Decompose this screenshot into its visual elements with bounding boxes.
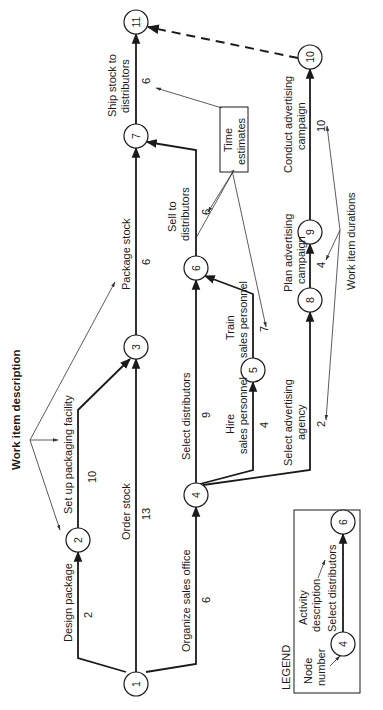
legend-node-to: 6 — [331, 510, 355, 534]
activity-sell-line2: distributors — [179, 187, 191, 241]
svg-text:Time: Time — [222, 128, 234, 152]
legend-title: LEGEND — [280, 645, 292, 690]
svg-text:Activity: Activity — [297, 590, 309, 625]
activity-ship-line1: Ship stock to — [106, 54, 118, 117]
node-6: 6 — [184, 256, 208, 280]
duration-select-distributors: 9 — [200, 412, 212, 418]
svg-text:8: 8 — [304, 297, 316, 303]
svg-text:2: 2 — [72, 537, 84, 543]
svg-text:1: 1 — [130, 681, 142, 687]
activity-order-stock: Order stock — [120, 483, 132, 540]
duration-design-package: 2 — [82, 612, 94, 618]
pointer-arrow-icon — [208, 170, 234, 212]
node-7: 7 — [124, 124, 148, 148]
activity-conduct-campaign-line2: campaign — [295, 102, 307, 150]
svg-text:7: 7 — [130, 133, 142, 139]
activity-labels: Design package 2 Set up packaging facili… — [62, 54, 327, 652]
svg-text:4: 4 — [190, 492, 202, 498]
pointer-arrow-icon — [156, 88, 222, 108]
activity-package-stock: Package stock — [120, 218, 132, 290]
duration-package-stock: 6 — [140, 259, 152, 265]
svg-text:4: 4 — [337, 641, 349, 647]
pointer-arrow-icon — [327, 126, 340, 230]
activity-plan-campaign-line1: Plan advertising — [282, 214, 294, 292]
edges — [78, 27, 310, 672]
activity-hire-line1: Hire — [224, 414, 236, 434]
svg-text:3: 3 — [130, 344, 142, 350]
annotation-work-item-durations: Work item durations — [326, 126, 357, 420]
activity-sell-line1: Sell to — [166, 201, 178, 232]
activity-design-package: Design package — [62, 563, 74, 642]
svg-text:estimates: estimates — [235, 117, 247, 165]
activity-hire-line2: sales personnel — [237, 377, 249, 454]
duration-hire: 4 — [258, 422, 270, 428]
duration-select-agency: 2 — [315, 421, 327, 427]
activity-ship-line2: distributors — [119, 59, 131, 113]
work-item-durations-label: Work item durations — [345, 192, 357, 290]
svg-text:Node: Node — [302, 658, 314, 684]
activity-organize-sales-office: Organize sales office — [180, 549, 192, 652]
activity-conduct-campaign-line1: Conduct advertising — [282, 76, 294, 173]
svg-text:number: number — [315, 648, 327, 686]
pointer-arrow-icon — [30, 440, 60, 530]
activity-train-line1: Train — [224, 315, 236, 340]
duration-order-stock: 13 — [140, 508, 152, 520]
svg-text:5: 5 — [247, 367, 259, 373]
network-diagram: 1 2 3 4 5 6 7 8 9 — [0, 0, 383, 710]
svg-text:10: 10 — [304, 51, 316, 63]
duration-conduct-campaign: 10 — [315, 120, 327, 132]
duration-organize-sales-office: 6 — [200, 597, 212, 603]
svg-text:6: 6 — [337, 519, 349, 525]
legend-example-activity: Select distributors — [326, 544, 338, 632]
legend: LEGEND Node number Activity description … — [280, 510, 360, 693]
node-4: 4 — [184, 483, 208, 507]
edge-10-11-dummy — [148, 27, 298, 58]
activity-train-line2: sales personnel — [237, 281, 249, 358]
duration-plan-campaign: 4 — [315, 262, 327, 268]
svg-text:11: 11 — [130, 16, 142, 27]
work-item-description-label: Work item description — [10, 349, 22, 470]
activity-select-agency-line2: agency — [295, 404, 307, 440]
svg-text:6: 6 — [190, 265, 202, 271]
activity-plan-campaign-line2: campaign — [295, 236, 307, 284]
node-11: 11 — [124, 10, 148, 34]
node-2: 2 — [66, 528, 90, 552]
duration-ship: 6 — [140, 78, 152, 84]
node-1: 1 — [124, 672, 148, 696]
node-8: 8 — [298, 288, 322, 312]
duration-set-up-packaging: 10 — [86, 471, 98, 483]
activity-select-agency-line1: Select advertising — [282, 379, 294, 466]
duration-train: 7 — [258, 326, 270, 332]
pointer-arrow-icon — [326, 230, 340, 420]
activity-set-up-packaging: Set up packaging facility — [62, 395, 74, 514]
node-10: 10 — [298, 45, 322, 69]
svg-text:9: 9 — [304, 229, 316, 235]
legend-node-from: 4 — [331, 632, 355, 656]
activity-select-distributors: Select distributors — [180, 372, 192, 460]
node-3: 3 — [124, 335, 148, 359]
svg-text:description: description — [310, 579, 322, 632]
